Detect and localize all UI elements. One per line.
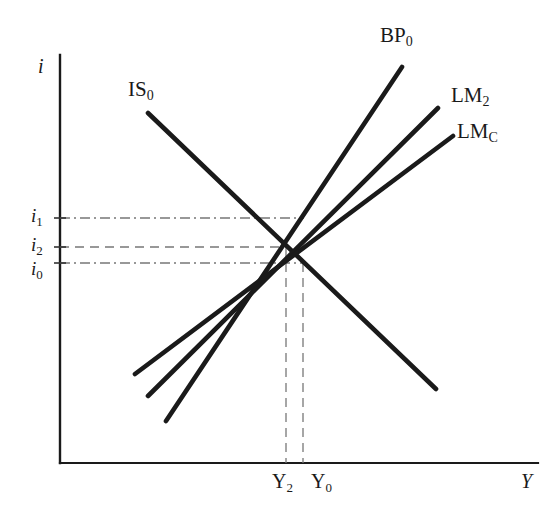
curve-bp0 (166, 67, 402, 421)
curve-label-lmc-sub: C (489, 130, 498, 145)
curve-label-bp0: BP0 (380, 25, 413, 49)
x-tick-label-Y0: Y0 (311, 471, 332, 494)
y-tick-label-i1-sub: 1 (36, 214, 43, 229)
y-tick-label-i1: i1 (31, 206, 43, 228)
curve-label-lmc: LMC (457, 121, 498, 145)
x-tick-label-Y0-sub: 0 (325, 480, 332, 495)
y-tick-label-i0-sub: 0 (36, 267, 43, 282)
curve-label-lm2: LM2 (451, 85, 490, 109)
curves-group (135, 67, 453, 421)
x-axis-label: Y (521, 471, 532, 491)
x-tick-label-Y2-base: Y (272, 470, 286, 492)
curve-label-is0-base: IS (128, 77, 147, 101)
diagram-canvas (0, 0, 548, 521)
curve-label-is0-sub: 0 (147, 88, 154, 103)
curve-label-lm2-base: LM (451, 83, 483, 107)
y-axis-label: i (38, 56, 44, 76)
y-tick-label-i0: i0 (31, 259, 43, 281)
is-lm-bp-diagram: i Y i1 i2 i0 Y2 Y0 IS0 BP0 LM2 LMC (0, 0, 548, 521)
y-tick-label-i2: i2 (31, 235, 43, 257)
curve-label-lm2-sub: 2 (483, 94, 490, 109)
vertical-guides-group (286, 248, 303, 463)
curve-label-bp0-sub: 0 (406, 34, 413, 49)
curve-lmc (135, 136, 453, 374)
curve-label-is0: IS0 (128, 79, 154, 103)
x-tick-label-Y2-sub: 2 (286, 480, 293, 495)
curve-label-bp0-base: BP (380, 23, 406, 47)
x-tick-label-Y2: Y2 (272, 471, 293, 494)
x-tick-label-Y0-base: Y (311, 470, 325, 492)
curve-label-lmc-base: LM (457, 119, 489, 143)
y-tick-label-i2-sub: 2 (36, 243, 43, 258)
curve-lm2 (148, 108, 438, 396)
